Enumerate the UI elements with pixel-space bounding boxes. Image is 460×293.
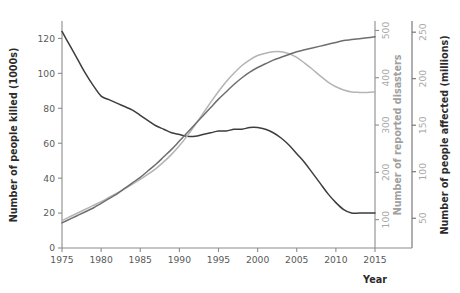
x-tick-label: 1995 xyxy=(207,254,231,265)
left-tick-label: 120 xyxy=(37,33,55,44)
disasters-tick-label: 200 xyxy=(380,163,391,181)
chart-root: 1975198019851990199520002005201020150204… xyxy=(0,0,460,293)
x-tick-label: 1975 xyxy=(50,254,74,265)
left-tick-label: 40 xyxy=(43,173,55,184)
left-tick-label: 60 xyxy=(43,138,55,149)
disasters-tick-label: 500 xyxy=(380,22,391,40)
left-tick-label: 20 xyxy=(43,207,55,218)
affected-tick-label: 100 xyxy=(417,163,428,181)
disasters-tick-label: 100 xyxy=(380,211,391,229)
x-tick-label: 2015 xyxy=(363,254,387,265)
x-tick-label: 1980 xyxy=(89,254,113,265)
multi-axis-line-chart: 1975198019851990199520002005201020150204… xyxy=(0,0,460,293)
x-tick-label: 2000 xyxy=(246,254,270,265)
x-tick-label: 1985 xyxy=(129,254,153,265)
affected-tick-label: 200 xyxy=(417,70,428,88)
left-tick-label: 100 xyxy=(37,68,55,79)
x-tick-label: 2010 xyxy=(324,254,348,265)
affected-tick-label: 50 xyxy=(417,212,428,224)
left-tick-label: 0 xyxy=(49,242,55,253)
affected-axis-title: Number of people affected (millions) xyxy=(439,35,450,234)
left-axis-title: Number of people killed (1000s) xyxy=(8,48,19,223)
left-tick-label: 80 xyxy=(43,103,55,114)
x-axis-title: Year xyxy=(362,274,387,285)
disasters-tick-label: 400 xyxy=(380,69,391,87)
x-tick-label: 1990 xyxy=(168,254,192,265)
affected-tick-label: 250 xyxy=(417,23,428,41)
disasters-tick-label: 300 xyxy=(380,116,391,134)
disasters-axis-title: Number of reported disasters xyxy=(392,54,403,215)
affected-tick-label: 150 xyxy=(417,116,428,134)
x-tick-label: 2005 xyxy=(285,254,309,265)
